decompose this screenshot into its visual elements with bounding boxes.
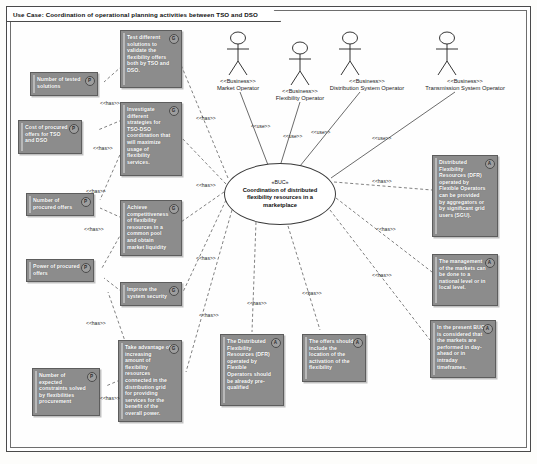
note-text: In the present BUC is considered that th… [437,324,485,370]
use-case-label: Coordination of distributed flexibility … [234,187,326,209]
assumption-badge-icon: A [485,258,495,268]
goal-badge-icon: G [169,344,179,354]
note-text: Investigate different strategies for TSO… [127,106,171,165]
note-number-tested-solutions[interactable]: P Number of tested solutions [30,72,98,96]
note-text: Power of procured offers [33,263,83,276]
assumption-badge-icon: A [271,338,281,348]
note-take-advantage-flexibility[interactable]: G Take advantage of increasing amount of… [118,340,182,422]
note-text: Number of expected constraints solved by… [39,372,89,405]
actor-stereotype: <<Business>> [405,78,525,85]
edge-label-has-14: <<has>> [86,320,106,326]
note-number-expected-constraints[interactable]: P Number of expected constraints solved … [32,368,100,416]
diagram-canvas: Use Case: Coordination of operational pl… [0,0,537,464]
edge-label-has-2: <<has>> [196,182,216,188]
actor-transmission-system-operator[interactable]: <<Business>> Transmission System Operato… [405,30,525,92]
metric-badge-icon: P [81,197,91,207]
note-timeframes[interactable]: A In the present BUC is considered that … [430,320,496,378]
assumption-badge-icon: A [483,324,493,334]
use-case-stereotype: «BUC» [271,179,288,186]
note-text: Achieve competitiveness of flexibility r… [127,204,171,250]
metric-badge-icon: P [87,372,97,382]
note-text: The Distributed Flexibility Resources (D… [227,338,273,391]
note-achieve-competitiveness[interactable]: G Achieve competitiveness of flexibility… [120,200,182,256]
edge-label-has-6: <<has>> [302,290,322,296]
edge-label-use-3: <<use>> [311,130,330,135]
edge-label-has-3: <<has>> [196,255,216,261]
note-cost-procured-offers[interactable]: P Cost of procured offers for TSO and DS… [18,120,82,154]
note-offers-include-location[interactable]: A The offers should include the location… [302,334,366,382]
note-number-procured-offers[interactable]: P Number of procured offers [26,193,94,216]
note-power-procured-offers[interactable]: P Power of procured offers [26,259,94,282]
note-dfr-pre-qualified[interactable]: A The Distributed Flexibility Resources … [220,334,284,406]
note-text: The offers should include the location o… [309,338,355,371]
note-investigate-strategies[interactable]: G Investigate different strategies for T… [120,102,182,176]
edge-label-has-10: <<has>> [100,100,120,106]
note-text: The management of the markets can be don… [439,258,487,291]
actor-label: Flexibility Operator [252,95,348,102]
note-text: Number of tested solutions [37,76,87,89]
edge-label-has-4: <<has>> [199,312,219,318]
use-case-ellipse[interactable]: «BUC» Coordination of distributed flexib… [224,163,336,225]
metric-badge-icon: P [81,263,91,273]
edge-label-use-2: <<use>> [283,134,302,139]
note-market-management-level[interactable]: A The management of the markets can be d… [432,254,498,306]
note-text: Test different solutions to validate the… [127,34,171,74]
note-dfr-aggregators-sgu[interactable]: A Distributed Flexibility Resources (DFR… [432,155,498,237]
goal-badge-icon: G [169,34,179,44]
edge-label-use-4: <<use>> [372,136,391,141]
edge-label-has-15: <<has>> [100,395,120,401]
note-text: Cost of procured offers for TSO and DSO [25,124,71,144]
edge-label-has-1: <<has>> [196,115,216,121]
note-text: Distributed Flexibility Resources (DFR) … [439,159,487,218]
edge-label-has-13: <<has>> [84,226,104,232]
metric-badge-icon: P [69,124,79,134]
note-text: Improve the system security [127,286,171,299]
note-text: Number of procured offers [33,197,83,210]
goal-badge-icon: G [169,286,179,296]
actor-figure-icon [427,30,467,78]
goal-badge-icon: G [169,106,179,116]
actor-figure-icon [330,30,370,78]
edge-label-has-9: <<has>> [372,272,392,278]
edge-label-has-7: <<has>> [372,178,392,184]
note-text: Take advantage of increasing amount of f… [125,344,171,417]
edge-label-use-1: <<use>> [251,124,270,129]
assumption-badge-icon: A [353,338,363,348]
edge-label-has-11: <<has>> [93,145,113,151]
edge-label-has-8: <<has>> [376,226,396,232]
diagram-title: Use Case: Coordination of operational pl… [7,7,281,22]
note-improve-system-security[interactable]: G Improve the system security [120,282,182,306]
assumption-badge-icon: A [485,159,495,169]
goal-badge-icon: G [169,204,179,214]
edge-label-has-5: <<has>> [247,300,267,306]
note-test-solutions[interactable]: G Test different solutions to validate t… [120,30,182,88]
metric-badge-icon: P [85,76,95,86]
actor-label: Transmission System Operator [405,85,525,92]
edge-label-has-12: <<has>> [86,188,106,194]
